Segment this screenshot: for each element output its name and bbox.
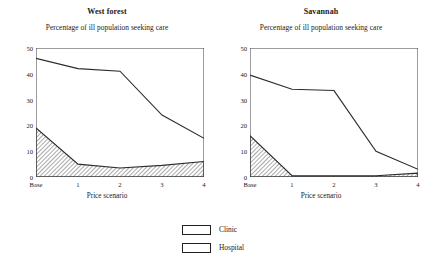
ytick-label: 10 <box>26 148 33 155</box>
chart-svg-west-forest <box>36 48 204 177</box>
xtick-label: 2 <box>118 181 121 188</box>
plot-area-west-forest: 01020304050Base1234 <box>36 48 204 177</box>
figure-container: West forest Percentage of ill population… <box>0 0 428 274</box>
panels-row: West forest Percentage of ill population… <box>0 0 428 214</box>
panel-savannah: Savannah Percentage of ill population se… <box>214 0 428 214</box>
ytick-label: 40 <box>26 70 33 77</box>
xtick-label: Base <box>30 181 43 188</box>
xtick-label: 1 <box>290 181 293 188</box>
clinic-open-swatch <box>182 225 211 235</box>
ytick-label: 10 <box>240 148 247 155</box>
panel-title-west-forest: West forest <box>0 7 214 16</box>
xtick-label: 3 <box>160 181 163 188</box>
ytick-label: 30 <box>240 96 247 103</box>
ytick-label: 50 <box>240 45 247 52</box>
ytick-label: 30 <box>26 96 33 103</box>
hospital-hatched-swatch <box>182 243 211 253</box>
plot-area-savannah: 01020304050Base1234 <box>250 48 418 177</box>
ytick-label: 0 <box>30 174 33 181</box>
xtick-label: 4 <box>202 181 205 188</box>
ytick-label: 40 <box>240 70 247 77</box>
ytick-label: 20 <box>26 122 33 129</box>
panel-west-forest: West forest Percentage of ill population… <box>0 0 214 214</box>
ytick-label: 20 <box>240 122 247 129</box>
xtick-label: Base <box>244 181 257 188</box>
panel-subtitle-west-forest: Percentage of ill population seeking car… <box>0 23 214 32</box>
ytick-label: 50 <box>26 45 33 52</box>
panel-subtitle-savannah: Percentage of ill population seeking car… <box>214 23 428 32</box>
xtick-label: 2 <box>332 181 335 188</box>
xtick-label: 3 <box>374 181 377 188</box>
ytick-label: 0 <box>244 174 247 181</box>
legend-label: Clinic <box>219 225 237 234</box>
chart-legend: ClinicHospital <box>0 220 428 266</box>
legend-item-clinic[interactable]: Clinic <box>182 222 244 237</box>
xaxis-label-west-forest: Price scenario <box>0 192 214 200</box>
legend-item-hospital[interactable]: Hospital <box>182 240 244 255</box>
legend-label: Hospital <box>219 243 244 252</box>
xtick-label: 4 <box>416 181 419 188</box>
legend-items: ClinicHospital <box>182 222 244 258</box>
xtick-label: 1 <box>76 181 79 188</box>
panel-title-savannah: Savannah <box>214 7 428 16</box>
chart-svg-savannah <box>250 48 418 177</box>
xaxis-label-savannah: Price scenario <box>214 192 428 200</box>
